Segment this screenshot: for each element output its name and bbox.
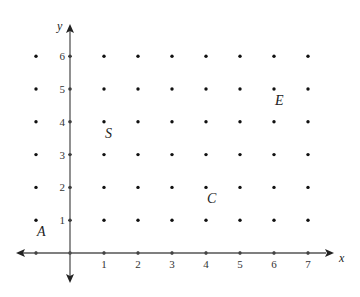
grid-dot bbox=[204, 153, 207, 156]
grid-dot bbox=[102, 219, 105, 222]
grid-dot bbox=[170, 153, 173, 156]
grid-dot bbox=[34, 219, 37, 222]
grid-dot bbox=[136, 87, 139, 90]
grid-dot bbox=[136, 55, 139, 58]
grid-dot bbox=[306, 120, 309, 123]
grid-dot bbox=[238, 120, 241, 123]
grid-dot bbox=[170, 186, 173, 189]
grid-dot bbox=[238, 87, 241, 90]
y-axis-label: y bbox=[56, 19, 63, 33]
grid-dot bbox=[34, 55, 37, 58]
grid-dot bbox=[238, 55, 241, 58]
grid-dot bbox=[136, 120, 139, 123]
grid-dot bbox=[136, 153, 139, 156]
grid-dot bbox=[306, 153, 309, 156]
x-axis-label: x bbox=[338, 251, 345, 265]
grid-dot bbox=[238, 153, 241, 156]
grid-dot bbox=[34, 153, 37, 156]
coordinate-plane: x y 1234567 123456 ASCE bbox=[0, 0, 360, 297]
point-label-c: C bbox=[207, 191, 217, 206]
grid-dot bbox=[34, 186, 37, 189]
point-labels: ASCE bbox=[36, 93, 284, 239]
point-label-e: E bbox=[274, 93, 284, 108]
x-axis-right-arrow-icon bbox=[325, 249, 334, 257]
grid-dot bbox=[102, 87, 105, 90]
y-tick-label: 2 bbox=[60, 181, 66, 193]
y-tick-labels: 123456 bbox=[60, 50, 66, 226]
y-tick-label: 4 bbox=[60, 116, 66, 128]
grid-dot bbox=[272, 87, 275, 90]
x-tick-labels: 1234567 bbox=[101, 258, 311, 270]
x-tick-label: 5 bbox=[237, 258, 243, 270]
grid-dot bbox=[204, 120, 207, 123]
grid-dot bbox=[102, 153, 105, 156]
y-tick-label: 3 bbox=[60, 149, 66, 161]
grid-dot bbox=[238, 219, 241, 222]
grid-dot bbox=[238, 186, 241, 189]
y-tick-label: 5 bbox=[60, 83, 66, 95]
y-tick-label: 1 bbox=[60, 214, 66, 226]
grid-dot bbox=[34, 87, 37, 90]
grid-dot bbox=[306, 55, 309, 58]
x-tick-label: 6 bbox=[271, 258, 277, 270]
grid-dot bbox=[272, 120, 275, 123]
grid-dot bbox=[102, 120, 105, 123]
grid-dot bbox=[170, 87, 173, 90]
x-tick-label: 7 bbox=[305, 258, 311, 270]
grid-dot bbox=[272, 186, 275, 189]
grid-dot bbox=[102, 55, 105, 58]
grid-dot bbox=[170, 55, 173, 58]
grid-dot bbox=[306, 186, 309, 189]
grid-dot bbox=[204, 55, 207, 58]
grid-dot bbox=[272, 153, 275, 156]
point-label-a: A bbox=[36, 224, 46, 239]
grid-dot bbox=[136, 186, 139, 189]
x-tick-label: 3 bbox=[169, 258, 175, 270]
grid-dot bbox=[34, 120, 37, 123]
x-tick-label: 2 bbox=[135, 258, 141, 270]
grid-dot bbox=[204, 87, 207, 90]
grid-dot bbox=[136, 219, 139, 222]
grid-dot bbox=[204, 219, 207, 222]
point-label-s: S bbox=[105, 126, 112, 141]
grid-dot bbox=[170, 219, 173, 222]
x-tick-label: 1 bbox=[101, 258, 107, 270]
x-tick-label: 4 bbox=[203, 258, 209, 270]
grid-dot bbox=[306, 219, 309, 222]
grid-dot bbox=[204, 186, 207, 189]
y-tick-label: 6 bbox=[60, 50, 66, 62]
grid-dots bbox=[34, 55, 309, 255]
grid-dot bbox=[306, 87, 309, 90]
grid-dot bbox=[272, 219, 275, 222]
grid-dot bbox=[170, 120, 173, 123]
grid-dot bbox=[102, 186, 105, 189]
grid-dot bbox=[272, 55, 275, 58]
